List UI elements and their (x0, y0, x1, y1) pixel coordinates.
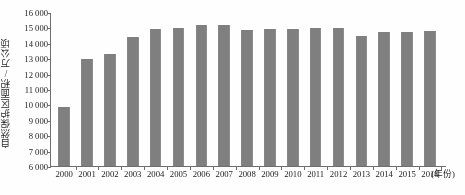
y-tick-mark (47, 13, 50, 14)
y-tick-mark (47, 152, 50, 153)
bar (287, 29, 299, 166)
bar (310, 28, 322, 166)
y-tick-mark (47, 105, 50, 106)
y-tick-mark (47, 167, 50, 168)
bar (58, 107, 70, 166)
y-axis-title: 自然保护区面积/万公顷 (1, 18, 15, 168)
y-tick-mark (47, 28, 50, 29)
x-axis-title: (年份) (431, 169, 455, 180)
x-axis-tick-labels: 2000200120022003200420052006200720082009… (50, 169, 450, 185)
y-tick-mark (47, 44, 50, 45)
y-axis-line (50, 13, 51, 168)
y-tick-label: 7 000 (16, 147, 48, 156)
y-tick-label: 14 000 (16, 40, 48, 49)
bar (218, 25, 230, 166)
y-tick-mark (47, 75, 50, 76)
bar (173, 28, 185, 166)
y-tick-label: 8 000 (16, 132, 48, 141)
bar (127, 37, 139, 166)
bar (104, 54, 116, 166)
y-tick-label: 13 000 (16, 55, 48, 64)
bar (264, 29, 276, 166)
plot-area (50, 13, 446, 167)
y-tick-label: 16 000 (16, 9, 48, 18)
y-tick-mark (47, 136, 50, 137)
bar (424, 31, 436, 166)
bar (333, 28, 345, 166)
x-axis-line (50, 166, 446, 167)
y-tick-mark (47, 121, 50, 122)
bar (241, 30, 253, 166)
bar (81, 59, 93, 166)
y-tick-mark (47, 59, 50, 60)
y-tick-label: 9 000 (16, 117, 48, 126)
y-tick-mark (47, 90, 50, 91)
bar (150, 29, 162, 166)
y-tick-label: 15 000 (16, 24, 48, 33)
y-tick-label: 11 000 (16, 86, 48, 95)
y-tick-label: 10 000 (16, 101, 48, 110)
y-axis-tick-labels: 16 00015 00014 00013 00012 00011 00010 0… (16, 0, 48, 195)
bar (196, 25, 208, 166)
bar (378, 32, 390, 166)
bar (401, 32, 413, 166)
bar-chart-figure: 自然保护区面积/万公顷 16 00015 00014 00013 00012 0… (0, 0, 465, 195)
y-tick-label: 12 000 (16, 70, 48, 79)
bar (356, 36, 368, 166)
